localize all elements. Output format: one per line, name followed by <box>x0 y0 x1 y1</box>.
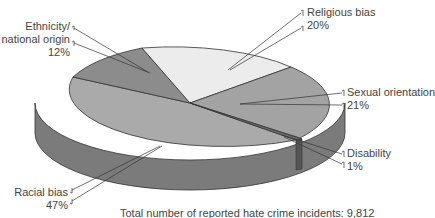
label-sexual-orientation: Sexual orientation 21% <box>347 86 435 112</box>
chart-footnote: Total number of reported hate crime inci… <box>120 207 374 218</box>
label-racial: Racial bias 47% <box>0 186 68 212</box>
label-racial-name: Racial bias <box>0 186 68 199</box>
pie-top <box>69 47 329 147</box>
label-religious: Religious bias 20% <box>307 6 375 32</box>
label-religious-pct: 20% <box>307 19 375 32</box>
label-religious-name: Religious bias <box>307 6 375 19</box>
label-ethnicity-name2: national origin <box>0 33 70 46</box>
label-disability-name: Disability <box>347 147 391 160</box>
label-sexual-name: Sexual orientation <box>347 86 435 99</box>
label-ethnicity-name: Ethnicity/ <box>0 20 70 33</box>
label-ethnicity: Ethnicity/ national origin 12% <box>0 20 70 59</box>
label-racial-pct: 47% <box>0 199 68 212</box>
label-disability: Disability 1% <box>347 147 391 173</box>
label-ethnicity-pct: 12% <box>0 46 70 59</box>
label-sexual-pct: 21% <box>347 99 435 112</box>
label-disability-pct: 1% <box>347 160 391 173</box>
